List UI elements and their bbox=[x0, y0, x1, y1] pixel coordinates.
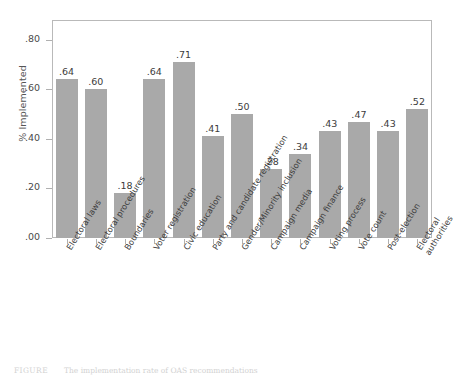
y-tick-label: .40 bbox=[25, 132, 40, 143]
y-tick-mark bbox=[46, 238, 52, 239]
y-tick-00: .00 bbox=[0, 238, 52, 239]
y-axis-label: % Implemented bbox=[17, 34, 28, 174]
bar-value-label: .43 bbox=[371, 118, 405, 129]
bar-value-label: .34 bbox=[283, 141, 317, 152]
bar-value-label: .50 bbox=[225, 101, 259, 112]
y-tick-label: .00 bbox=[25, 231, 40, 242]
y-tick-40: .40 bbox=[0, 139, 52, 140]
bar bbox=[56, 79, 78, 238]
bar-value-label: .71 bbox=[167, 49, 201, 60]
caption-text: The implementation rate of OAS recommend… bbox=[64, 366, 258, 375]
bar-value-label: .41 bbox=[196, 123, 230, 134]
y-tick-label: .60 bbox=[25, 82, 40, 93]
bar-group: .64 bbox=[143, 20, 165, 238]
bar-value-label: .43 bbox=[313, 118, 347, 129]
bar-group: .64 bbox=[56, 20, 78, 238]
y-tick-label: .20 bbox=[25, 181, 40, 192]
y-tick-60: .60 bbox=[0, 89, 52, 90]
bar-value-label: .60 bbox=[79, 76, 113, 87]
bar-value-label: .64 bbox=[137, 66, 171, 77]
figure-caption: FIGUREThe implementation rate of OAS rec… bbox=[14, 366, 434, 375]
caption-tag: FIGURE bbox=[14, 366, 48, 375]
y-tick-label: .80 bbox=[25, 33, 40, 44]
y-tick-80: .80 bbox=[0, 40, 52, 41]
bar-value-label: .52 bbox=[400, 96, 434, 107]
y-tick-20: .20 bbox=[0, 188, 52, 189]
bar-group: .43 bbox=[377, 20, 399, 238]
